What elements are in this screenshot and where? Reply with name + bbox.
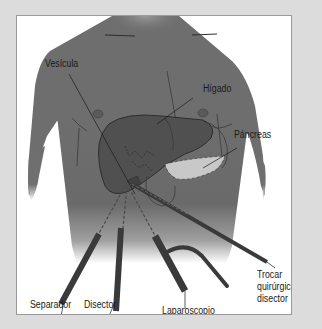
label-laparoscopio: Laparoscopio [162,305,215,315]
label-vesicula: Vesícula [45,58,78,70]
label-higado: Hígado [203,83,231,95]
label-disector: Disector [84,299,116,311]
label-separador: Separador [30,299,71,311]
label-trocar-line1: Trocar [257,269,282,281]
label-pancreas: Páncreas [234,129,271,141]
label-trocar-line2: quirúrgico; [257,281,292,293]
diagram-panel: Vesícula Hígado Páncreas Trocar quirúrgi… [16,15,292,315]
label-trocar-line3: disector [257,293,288,305]
